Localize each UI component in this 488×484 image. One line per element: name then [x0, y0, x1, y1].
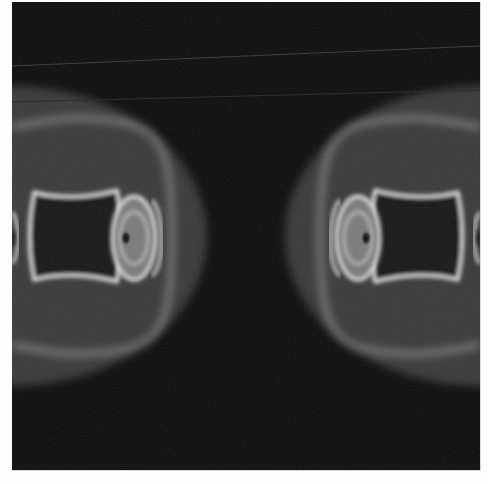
field-image — [12, 2, 481, 471]
field-pattern — [12, 2, 480, 470]
